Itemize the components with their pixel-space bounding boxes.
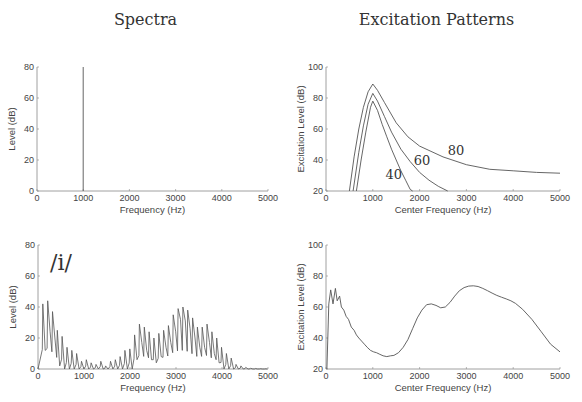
- x-tick-label: 2000: [410, 193, 430, 203]
- x-tick-label: 0: [34, 193, 39, 203]
- y-axis-label: Level (dB): [6, 107, 17, 150]
- figure-canvas: 010002000300040005000020406080Frequency …: [0, 0, 582, 402]
- x-tick-label: 3000: [456, 193, 476, 203]
- y-tick-label: 20: [24, 155, 34, 165]
- y-tick-label: 0: [30, 364, 35, 374]
- x-tick-label: 5000: [258, 371, 278, 381]
- series-line: [327, 286, 560, 369]
- x-tick-label: 1000: [363, 193, 383, 203]
- x-tick-label: 1000: [73, 193, 93, 203]
- x-axis-label: Center Frequency (Hz): [395, 204, 492, 215]
- y-tick-label: 20: [25, 333, 35, 343]
- x-axis-label: Center Frequency (Hz): [395, 382, 492, 393]
- x-tick-label: 1000: [74, 371, 94, 381]
- x-tick-label: 2000: [410, 371, 430, 381]
- y-tick-label: 60: [24, 93, 34, 103]
- y-tick-label: 80: [313, 93, 323, 103]
- x-tick-label: 5000: [550, 371, 570, 381]
- curve-level-label: 60: [414, 153, 431, 168]
- y-tick-label: 100: [308, 62, 323, 72]
- y-axis-label: Excitation Level (dB): [295, 85, 306, 172]
- excitation-tone-plot: 01000200030004000500020406080100Center F…: [295, 62, 570, 215]
- y-tick-label: 80: [313, 271, 323, 281]
- y-tick-label: 60: [313, 302, 323, 312]
- y-tick-label: 40: [24, 124, 34, 134]
- curve-level-label: 80: [448, 143, 465, 158]
- x-tick-label: 4000: [212, 371, 232, 381]
- spectrum-vowel-i-plot: 010002000300040005000020406080Frequency …: [7, 240, 278, 393]
- spectrum-tone-plot: 010002000300040005000020406080Frequency …: [6, 62, 278, 215]
- y-tick-label: 0: [29, 186, 34, 196]
- series-line: [349, 84, 560, 191]
- x-tick-label: 4000: [503, 193, 523, 203]
- harmonic-spectrum-line: [38, 301, 267, 369]
- y-tick-label: 40: [313, 155, 323, 165]
- excitation-vowel-i-plot: 01000200030004000500020406080100Center F…: [295, 240, 570, 393]
- y-tick-label: 40: [25, 302, 35, 312]
- y-tick-label: 20: [313, 364, 323, 374]
- y-tick-label: 60: [25, 271, 35, 281]
- vowel-label: /i/: [50, 250, 72, 275]
- x-tick-label: 4000: [212, 193, 232, 203]
- series-line: [356, 101, 412, 191]
- y-tick-label: 60: [313, 124, 323, 134]
- y-axis-label: Excitation Level (dB): [295, 263, 306, 350]
- x-tick-label: 4000: [503, 371, 523, 381]
- y-tick-label: 80: [25, 240, 35, 250]
- x-tick-label: 0: [323, 371, 328, 381]
- x-axis-label: Frequency (Hz): [120, 204, 185, 215]
- x-tick-label: 5000: [258, 193, 278, 203]
- x-axis-label: Frequency (Hz): [120, 382, 185, 393]
- x-tick-label: 0: [323, 193, 328, 203]
- x-tick-label: 3000: [166, 193, 186, 203]
- x-tick-label: 3000: [166, 371, 186, 381]
- y-tick-label: 100: [308, 240, 323, 250]
- x-tick-label: 5000: [550, 193, 570, 203]
- y-tick-label: 20: [313, 186, 323, 196]
- x-tick-label: 2000: [119, 193, 139, 203]
- y-axis-label: Level (dB): [7, 285, 18, 328]
- y-tick-label: 80: [24, 62, 34, 72]
- x-tick-label: 3000: [456, 371, 476, 381]
- curve-level-label: 40: [386, 167, 403, 182]
- x-tick-label: 0: [35, 371, 40, 381]
- y-tick-label: 40: [313, 333, 323, 343]
- x-tick-label: 2000: [120, 371, 140, 381]
- x-tick-label: 1000: [363, 371, 383, 381]
